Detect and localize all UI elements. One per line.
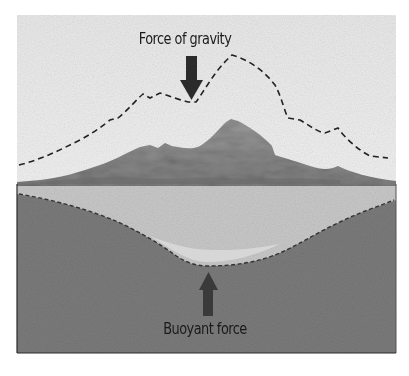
mountain-strata	[40, 177, 340, 184]
isostasy-diagram: Force of gravity Buoyant force	[0, 0, 409, 376]
buoyant-label: Buoyant force	[141, 320, 270, 338]
gravity-label: Force of gravity	[121, 30, 250, 48]
